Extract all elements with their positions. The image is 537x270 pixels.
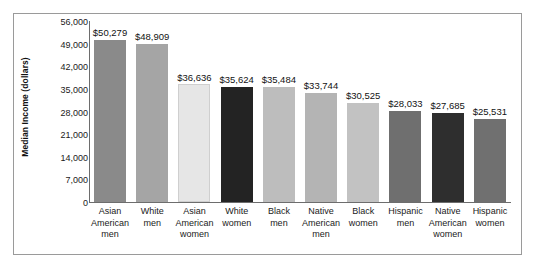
x-axis-category-label: AsianAmericanmen <box>87 206 133 241</box>
bar[interactable]: $35,484 <box>263 87 295 202</box>
category-label-line: White <box>214 206 260 218</box>
category-label-line: Asian <box>172 206 218 218</box>
x-axis-category-label: NativeAmericanwomen <box>425 206 471 241</box>
category-label-line: White <box>129 206 175 218</box>
category-label-line: men <box>87 229 133 241</box>
category-label-line: men <box>298 229 344 241</box>
category-label-line: Asian <box>87 206 133 218</box>
bar-slot: $48,909 <box>131 21 173 202</box>
y-axis-tick-label: 35,000 <box>42 85 88 95</box>
x-axis-category-label: NativeAmericanmen <box>298 206 344 241</box>
category-label-line: American <box>87 218 133 230</box>
plot-area: $50,279$48,909$36,636$35,624$35,484$33,7… <box>89 21 511 203</box>
x-axis-category-labels: AsianAmericanmenWhitemenAsianAmericanwom… <box>89 206 511 252</box>
x-axis-category-label: Blackwomen <box>340 206 386 229</box>
bar-slot: $30,525 <box>342 21 384 202</box>
y-axis-tick-label: 14,000 <box>42 153 88 163</box>
y-axis-tick-label: 7,000 <box>42 175 88 185</box>
bar-slot: $25,531 <box>469 21 511 202</box>
y-axis-tick-labels: 56,00049,00042,00035,00028,00021,00014,0… <box>42 14 88 256</box>
category-label-line: Native <box>425 206 471 218</box>
bar-value-label: $35,624 <box>219 74 253 85</box>
bar-value-label: $50,279 <box>93 27 127 38</box>
category-label-line: men <box>256 218 302 230</box>
y-axis-tick-label: 21,000 <box>42 130 88 140</box>
category-label-line: women <box>172 229 218 241</box>
category-label-line: women <box>214 218 260 230</box>
category-label-line: Hispanic <box>467 206 513 218</box>
bar-slot: $50,279 <box>89 21 131 202</box>
y-axis-title: Median Income (dollars) <box>20 17 30 197</box>
category-label-line: Hispanic <box>383 206 429 218</box>
x-axis-category-label: Hispanicwomen <box>467 206 513 229</box>
category-label-line: Native <box>298 206 344 218</box>
y-axis-tick-label: 42,000 <box>42 62 88 72</box>
bar-slot: $33,744 <box>300 21 342 202</box>
x-axis-category-label: Hispanicmen <box>383 206 429 229</box>
x-axis-category-label: AsianAmericanwomen <box>172 206 218 241</box>
x-axis-category-label: Blackmen <box>256 206 302 229</box>
y-axis-tick-label: 0 <box>42 198 88 208</box>
x-axis-category-label: Whitewomen <box>214 206 260 229</box>
bar-value-label: $27,685 <box>430 100 464 111</box>
bar[interactable]: $48,909 <box>136 44 168 202</box>
category-label-line: women <box>467 218 513 230</box>
category-label-line: men <box>129 218 175 230</box>
bar-slot: $35,624 <box>216 21 258 202</box>
y-axis-tick-label: 49,000 <box>42 40 88 50</box>
bar[interactable]: $36,636 <box>178 84 210 202</box>
bar-value-label: $25,531 <box>473 106 507 117</box>
category-label-line: women <box>340 218 386 230</box>
bar-slot: $36,636 <box>173 21 215 202</box>
category-label-line: Black <box>340 206 386 218</box>
bar[interactable]: $28,033 <box>389 111 421 202</box>
bar-slot: $27,685 <box>427 21 469 202</box>
category-label-line: American <box>425 218 471 230</box>
bar-slot: $28,033 <box>384 21 426 202</box>
bar-slot: $35,484 <box>258 21 300 202</box>
category-label-line: Black <box>256 206 302 218</box>
bar-value-label: $48,909 <box>135 31 169 42</box>
bar[interactable]: $30,525 <box>347 103 379 202</box>
bar[interactable]: $27,685 <box>432 113 464 202</box>
bar-value-label: $35,484 <box>262 74 296 85</box>
category-label-line: American <box>172 218 218 230</box>
category-label-line: American <box>298 218 344 230</box>
bar[interactable]: $50,279 <box>94 40 126 203</box>
chart-figure: Median Income (dollars) 56,00049,00042,0… <box>13 13 522 255</box>
bar[interactable]: $35,624 <box>221 87 253 202</box>
bar-value-label: $30,525 <box>346 90 380 101</box>
bar-value-label: $36,636 <box>177 72 211 83</box>
x-axis-line <box>89 202 511 203</box>
bar-value-label: $33,744 <box>304 80 338 91</box>
bar-value-label: $28,033 <box>388 98 422 109</box>
bar[interactable]: $33,744 <box>305 93 337 202</box>
category-label-line: men <box>383 218 429 230</box>
bar[interactable]: $25,531 <box>474 119 506 202</box>
x-axis-category-label: Whitemen <box>129 206 175 229</box>
y-axis-tick-label: 56,000 <box>42 17 88 27</box>
category-label-line: women <box>425 229 471 241</box>
y-axis-tick-label: 28,000 <box>42 108 88 118</box>
